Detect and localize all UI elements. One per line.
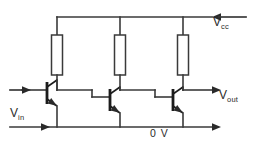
ground-arrow-icon bbox=[212, 123, 221, 131]
vout-branch bbox=[183, 86, 221, 94]
transistor-q2 bbox=[110, 87, 173, 127]
ground-label: 0 V bbox=[150, 128, 169, 139]
resistor-r3-body bbox=[178, 35, 189, 75]
vin-upper-arrow-icon bbox=[22, 86, 31, 94]
transistor-q1 bbox=[22, 80, 110, 127]
q3-emitter-arrow-icon bbox=[174, 105, 183, 113]
q2-emitter-arrow-icon bbox=[111, 105, 120, 113]
q1-collector-lead bbox=[47, 80, 57, 87]
circuit-diagram-canvas: Vcc Vout Vin 0 V bbox=[0, 0, 256, 151]
resistor-r3 bbox=[178, 35, 189, 90]
vin-label-subscript: in bbox=[18, 113, 24, 122]
q1-emitter-arrow-icon bbox=[48, 98, 57, 106]
vin-label-base: V bbox=[10, 106, 18, 120]
resistor-r1-body bbox=[52, 35, 63, 75]
vin-label: Vin bbox=[10, 104, 24, 120]
vout-label: Vout bbox=[219, 86, 238, 102]
resistor-r2 bbox=[115, 35, 126, 90]
vin-lower-arrow-icon bbox=[41, 123, 50, 131]
resistor-r2-body bbox=[115, 35, 126, 75]
vout-label-base: V bbox=[219, 88, 227, 102]
transistor-q3 bbox=[173, 87, 183, 127]
vcc-label-base: V bbox=[213, 15, 221, 29]
vout-label-subscript: out bbox=[227, 95, 238, 104]
vcc-label-subscript: cc bbox=[221, 22, 229, 31]
q2-collector-lead bbox=[110, 87, 120, 94]
q3-collector-lead bbox=[173, 87, 183, 94]
vcc-label: Vcc bbox=[213, 13, 229, 29]
